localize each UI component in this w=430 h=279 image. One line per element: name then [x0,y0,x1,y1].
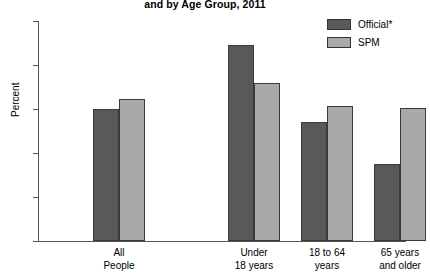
y-tick [33,21,39,22]
y-tick [33,197,39,198]
y-tick [33,65,39,66]
category-label: AllPeople [64,247,174,272]
y-tick [33,153,39,154]
y-axis-line [38,21,39,242]
bar-official[interactable] [93,109,119,241]
y-tick [33,109,39,110]
y-tick [33,241,39,242]
bar-spm[interactable] [119,99,145,241]
chart-title: and by Age Group, 2011 [0,0,410,11]
x-axis-line [38,241,406,242]
plot-area: Percent 0510152025 AllPeopleUnder18 year… [38,21,406,242]
bar-official[interactable] [374,164,400,241]
bar-spm[interactable] [327,106,353,241]
bar-spm[interactable] [400,108,426,241]
bar-official[interactable] [301,122,327,241]
y-axis-title: Percent [10,83,21,117]
bar-official[interactable] [228,45,254,241]
bar-spm[interactable] [254,83,280,241]
category-label: 65 yearsand older [345,247,430,272]
